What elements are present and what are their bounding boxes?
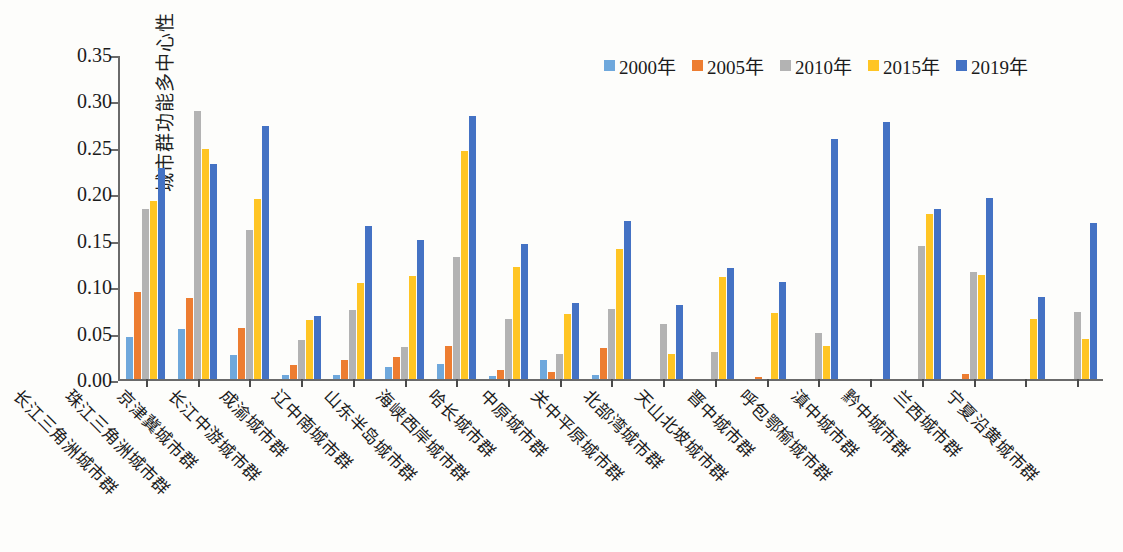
bar[interactable] bbox=[202, 149, 209, 379]
bar[interactable] bbox=[210, 164, 217, 379]
bar[interactable] bbox=[246, 230, 253, 379]
bar[interactable] bbox=[186, 298, 193, 379]
y-tick-label: 0.20 bbox=[77, 183, 112, 206]
bar[interactable] bbox=[624, 221, 631, 379]
bar-group bbox=[534, 56, 586, 379]
bar[interactable] bbox=[548, 372, 555, 379]
bar[interactable] bbox=[282, 375, 289, 379]
bar[interactable] bbox=[668, 354, 675, 379]
y-axis-title: 城市群功能多中心性 bbox=[14, 0, 48, 134]
bar[interactable] bbox=[883, 122, 890, 379]
bar-group bbox=[948, 56, 1000, 379]
bar[interactable] bbox=[719, 277, 726, 379]
y-tick-label: 0.10 bbox=[77, 276, 112, 299]
bar[interactable] bbox=[572, 303, 579, 379]
bar-group bbox=[379, 56, 431, 379]
bar-group bbox=[223, 56, 275, 379]
bar[interactable] bbox=[1030, 319, 1037, 379]
bar[interactable] bbox=[194, 111, 201, 379]
bar[interactable] bbox=[357, 283, 364, 379]
bar[interactable] bbox=[417, 240, 424, 379]
bar[interactable] bbox=[238, 328, 245, 379]
bar-group bbox=[844, 56, 896, 379]
bar[interactable] bbox=[1082, 339, 1089, 379]
bar[interactable] bbox=[521, 244, 528, 379]
bar[interactable] bbox=[727, 268, 734, 379]
x-axis-labels: 长江三角洲城市群珠江三角洲城市群京津冀城市群长江中游城市群成渝城市群辽中南城市群… bbox=[118, 383, 1103, 548]
bar[interactable] bbox=[333, 375, 340, 379]
bar[interactable] bbox=[158, 168, 165, 379]
bar[interactable] bbox=[926, 214, 933, 379]
bar[interactable] bbox=[393, 357, 400, 379]
bar[interactable] bbox=[978, 275, 985, 379]
bar[interactable] bbox=[970, 272, 977, 379]
y-tick-label: 0.25 bbox=[77, 137, 112, 160]
bar[interactable] bbox=[962, 374, 969, 379]
bar[interactable] bbox=[461, 151, 468, 379]
bar[interactable] bbox=[489, 376, 496, 379]
bar[interactable] bbox=[608, 309, 615, 379]
bar[interactable] bbox=[660, 324, 667, 379]
bar[interactable] bbox=[365, 226, 372, 379]
bar[interactable] bbox=[779, 282, 786, 379]
bar[interactable] bbox=[918, 246, 925, 379]
bar[interactable] bbox=[1074, 312, 1081, 379]
bar[interactable] bbox=[437, 364, 444, 379]
bar-group bbox=[327, 56, 379, 379]
bar-group bbox=[637, 56, 689, 379]
bar[interactable] bbox=[469, 116, 476, 379]
bar[interactable] bbox=[401, 347, 408, 379]
y-tick-label: 0.35 bbox=[77, 44, 112, 67]
bar[interactable] bbox=[1038, 297, 1045, 379]
bar[interactable] bbox=[142, 209, 149, 379]
bar[interactable] bbox=[505, 319, 512, 379]
bar[interactable] bbox=[314, 316, 321, 379]
bar[interactable] bbox=[755, 377, 762, 379]
bar[interactable] bbox=[150, 201, 157, 379]
bar[interactable] bbox=[341, 360, 348, 380]
bar[interactable] bbox=[290, 365, 297, 379]
bar[interactable] bbox=[453, 257, 460, 379]
bar[interactable] bbox=[1090, 223, 1097, 379]
bar-group bbox=[275, 56, 327, 379]
bar[interactable] bbox=[254, 199, 261, 379]
bar-group bbox=[999, 56, 1051, 379]
y-tick-label: 0.05 bbox=[77, 323, 112, 346]
bar[interactable] bbox=[540, 360, 547, 380]
bar[interactable] bbox=[262, 126, 269, 379]
bar-groups bbox=[120, 56, 1103, 379]
bar[interactable] bbox=[298, 340, 305, 379]
bar[interactable] bbox=[306, 320, 313, 379]
bar[interactable] bbox=[134, 292, 141, 379]
bar[interactable] bbox=[513, 267, 520, 379]
bar[interactable] bbox=[497, 370, 504, 379]
bar[interactable] bbox=[934, 209, 941, 379]
bar[interactable] bbox=[349, 310, 356, 379]
bar[interactable] bbox=[831, 139, 838, 379]
bar[interactable] bbox=[178, 329, 185, 379]
chart-page: 城市群功能多中心性 2000年2005年2010年2015年2019年 0.00… bbox=[0, 0, 1123, 552]
bar[interactable] bbox=[409, 276, 416, 379]
bar-group bbox=[482, 56, 534, 379]
bar[interactable] bbox=[711, 352, 718, 379]
bar[interactable] bbox=[600, 348, 607, 379]
y-tick-label: 0.15 bbox=[77, 230, 112, 253]
bar[interactable] bbox=[126, 337, 133, 379]
bar[interactable] bbox=[823, 346, 830, 379]
bar-group bbox=[689, 56, 741, 379]
bar[interactable] bbox=[592, 375, 599, 379]
bar-group bbox=[793, 56, 845, 379]
bar[interactable] bbox=[385, 367, 392, 379]
bar[interactable] bbox=[616, 249, 623, 379]
bar[interactable] bbox=[556, 354, 563, 379]
bar[interactable] bbox=[445, 346, 452, 379]
bar[interactable] bbox=[230, 355, 237, 379]
bar[interactable] bbox=[986, 198, 993, 379]
bar[interactable] bbox=[815, 333, 822, 379]
bar-group bbox=[120, 56, 172, 379]
bar[interactable] bbox=[564, 314, 571, 379]
y-tick-label: 0.30 bbox=[77, 90, 112, 113]
bar[interactable] bbox=[676, 305, 683, 379]
bar[interactable] bbox=[771, 313, 778, 379]
bar-group bbox=[586, 56, 638, 379]
